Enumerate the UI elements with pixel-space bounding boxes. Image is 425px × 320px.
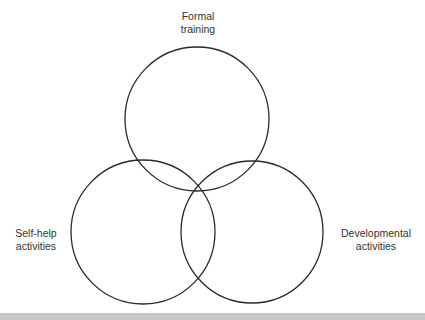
- venn-diagram: [0, 0, 425, 320]
- label-formal-training: Formal training: [172, 10, 224, 36]
- label-developmental-activities: Developmental activities: [336, 227, 416, 253]
- circle-developmental-activities: [181, 161, 323, 303]
- label-selfhelp-line1: Self-help: [10, 227, 62, 240]
- circle-formal-training: [125, 47, 269, 191]
- label-formal-line2: training: [172, 23, 224, 36]
- bottom-border-bar: [0, 313, 425, 320]
- label-selfhelp-line2: activities: [10, 240, 62, 253]
- label-developmental-line1: Developmental: [336, 227, 416, 240]
- label-self-help-activities: Self-help activities: [10, 227, 62, 253]
- label-developmental-line2: activities: [336, 240, 416, 253]
- label-formal-line1: Formal: [172, 10, 224, 23]
- circle-self-help-activities: [71, 160, 215, 304]
